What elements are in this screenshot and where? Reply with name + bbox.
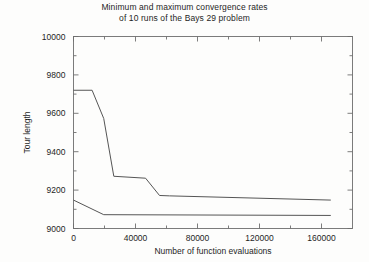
y-tick-label: 9800 xyxy=(47,70,66,80)
x-tick-label: 0 xyxy=(71,233,76,243)
series-line-maximum xyxy=(74,90,331,200)
x-tick-label: 40000 xyxy=(124,233,148,243)
x-tick-label: 80000 xyxy=(186,233,210,243)
data-series-group xyxy=(74,90,331,215)
x-tick-label: 160000 xyxy=(307,233,336,243)
y-axis-title: Tour length xyxy=(22,111,32,153)
y-tick-label: 9200 xyxy=(47,185,66,195)
chart-plot-area: 9000920094009600980010000040000800001200… xyxy=(0,0,369,262)
chart-page: Minimum and maximum convergence rates of… xyxy=(0,0,369,262)
x-axis-title: Number of function evaluations xyxy=(154,246,271,256)
y-tick-label: 9000 xyxy=(47,224,66,234)
y-tick-label: 9600 xyxy=(47,108,66,118)
y-tick-label: 10000 xyxy=(42,32,66,42)
series-line-minimum xyxy=(74,200,331,215)
tick-labels-group: 9000920094009600980010000040000800001200… xyxy=(42,32,336,243)
x-tick-label: 120000 xyxy=(245,233,274,243)
y-tick-label: 9400 xyxy=(47,147,66,157)
